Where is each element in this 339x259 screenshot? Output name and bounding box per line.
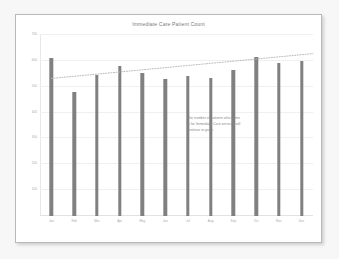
x-axis-tick-label: Sep: [231, 219, 237, 223]
bar[interactable]: [300, 61, 303, 216]
y-axis-tick-label: 200: [32, 161, 37, 165]
bar[interactable]: [95, 75, 98, 216]
bar-slot[interactable]: Dec: [290, 35, 313, 216]
y-axis-tick-label: 400: [32, 110, 37, 114]
annotation-line: continue to grow.: [187, 127, 277, 133]
x-axis-tick-label: Jul: [186, 219, 190, 223]
y-axis-tick-label: 500: [32, 84, 37, 88]
bar[interactable]: [186, 76, 189, 216]
y-axis-tick-label: 700: [32, 32, 37, 36]
x-axis-tick-label: Jun: [163, 219, 168, 223]
bar-slot[interactable]: Mar: [86, 35, 109, 216]
x-axis-tick-label: Dec: [299, 219, 305, 223]
bar[interactable]: [50, 58, 53, 216]
bar-slot[interactable]: Apr: [108, 35, 131, 216]
x-axis-tick-label: Nov: [276, 219, 282, 223]
x-axis-tick-label: Feb: [71, 219, 76, 223]
bar[interactable]: [277, 63, 280, 216]
x-axis-tick-label: Mar: [94, 219, 99, 223]
x-axis-tick-label: Jan: [49, 219, 54, 223]
chart-annotation-text: The number of patients who comein for Im…: [187, 115, 277, 133]
y-axis-tick-label: 600: [32, 58, 37, 62]
x-axis-tick-label: May: [139, 219, 145, 223]
bar-slot[interactable]: May: [131, 35, 154, 216]
screenshot-root: Immediate Care Patient Count 10020030040…: [0, 0, 339, 259]
bar[interactable]: [163, 79, 166, 216]
bar-slot[interactable]: Jun: [154, 35, 177, 216]
bar[interactable]: [141, 73, 144, 217]
bar[interactable]: [232, 70, 235, 216]
bar[interactable]: [254, 57, 257, 216]
x-axis-tick-label: Oct: [254, 219, 259, 223]
bar[interactable]: [118, 66, 121, 216]
chart-title: Immediate Care Patient Count: [16, 21, 321, 27]
y-axis-tick-label: 300: [32, 135, 37, 139]
bar[interactable]: [72, 92, 75, 216]
bar-slot[interactable]: Jan: [40, 35, 63, 216]
slide-canvas[interactable]: Immediate Care Patient Count 10020030040…: [15, 14, 322, 243]
bar[interactable]: [209, 78, 212, 216]
x-axis-tick-label: Aug: [208, 219, 214, 223]
bar-slot[interactable]: Feb: [63, 35, 86, 216]
x-axis-tick-label: Apr: [117, 219, 122, 223]
y-axis-tick-label: 100: [32, 187, 37, 191]
bar-chart[interactable]: Immediate Care Patient Count 10020030040…: [16, 15, 321, 242]
